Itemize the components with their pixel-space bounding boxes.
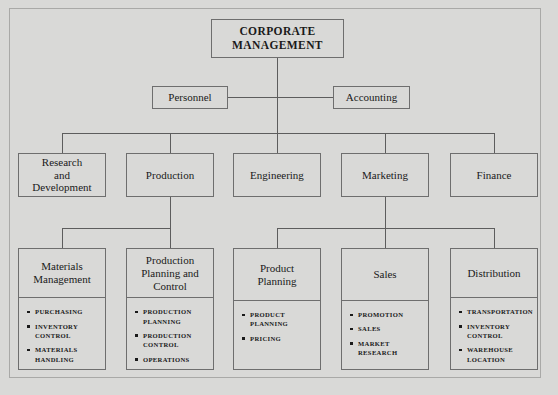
department-item-list: PURCHASING INVENTORY CONTROL MATERIALS H… — [19, 298, 105, 369]
node-production[interactable]: Production — [126, 153, 214, 197]
node-label: Personnel — [168, 91, 211, 104]
connector-marketing-stem — [385, 197, 386, 228]
connector-production-stem — [170, 197, 171, 228]
connector-drop-production-planning — [170, 228, 171, 248]
node-label: Engineering — [250, 169, 304, 182]
connector-drop-production — [170, 133, 171, 153]
node-engineering[interactable]: Engineering — [233, 153, 321, 197]
list-item: OPERATIONS — [135, 355, 209, 364]
connector-drop-distribution — [494, 228, 495, 248]
node-label: Research and Development — [32, 156, 91, 195]
node-label: Finance — [477, 169, 512, 182]
node-sales[interactable]: Sales PROMOTION SALES MARKET RESEARCH — [341, 248, 429, 370]
node-label: Sales — [342, 249, 428, 301]
connector-drop-engineering — [277, 133, 278, 153]
node-label: Marketing — [362, 169, 408, 182]
connector-root-trunk — [277, 58, 278, 133]
department-item-list: PROMOTION SALES MARKET RESEARCH — [342, 301, 428, 362]
node-label: Production — [146, 169, 194, 182]
list-item: PRICING — [242, 334, 316, 343]
node-product-planning[interactable]: Product Planning PRODUCT PLANNING PRICIN… — [233, 248, 321, 370]
list-item: TRANSPORTATION — [459, 307, 533, 316]
connector-drop-marketing — [385, 133, 386, 153]
department-item-list: PRODUCTION PLANNING PRODUCTION CONTROL O… — [127, 298, 213, 369]
node-personnel[interactable]: Personnel — [152, 86, 228, 109]
node-materials-management[interactable]: Materials Management PURCHASING INVENTOR… — [18, 248, 106, 370]
connector-marketing-bus — [277, 228, 495, 229]
node-label: Product Planning — [234, 249, 320, 301]
list-item: MARKET RESEARCH — [350, 339, 424, 358]
connector-production-bus — [62, 228, 171, 229]
department-item-list: TRANSPORTATION INVENTORY CONTROL WAREHOU… — [451, 298, 537, 369]
node-label: Materials Management — [19, 249, 105, 298]
list-item: PURCHASING — [27, 307, 101, 316]
node-label: Distribution — [451, 249, 537, 298]
connector-drop-sales — [385, 228, 386, 248]
list-item: PROMOTION — [350, 310, 424, 319]
node-finance[interactable]: Finance — [450, 153, 538, 197]
connector-division-bus — [62, 133, 494, 134]
node-marketing[interactable]: Marketing — [341, 153, 429, 197]
connector-drop-research — [62, 133, 63, 153]
org-chart-canvas: CORPORATE MANAGEMENT Personnel Accountin… — [0, 0, 558, 395]
node-corporate-management[interactable]: CORPORATE MANAGEMENT — [211, 19, 344, 58]
node-label: Accounting — [346, 91, 397, 104]
connector-drop-product-planning — [277, 228, 278, 248]
connector-staff-line — [228, 97, 333, 98]
list-item: INVENTORY CONTROL — [459, 322, 533, 341]
node-research-and-development[interactable]: Research and Development — [18, 153, 106, 197]
node-distribution[interactable]: Distribution TRANSPORTATION INVENTORY CO… — [450, 248, 538, 370]
node-accounting[interactable]: Accounting — [333, 86, 410, 109]
connector-drop-materials-management — [62, 228, 63, 248]
list-item: MATERIALS HANDLING — [27, 345, 101, 364]
department-item-list: PRODUCT PLANNING PRICING — [234, 301, 320, 348]
list-item: INVENTORY CONTROL — [27, 322, 101, 341]
list-item: PRODUCTION PLANNING — [135, 307, 209, 326]
node-label: Production Planning and Control — [127, 249, 213, 298]
list-item: WAREHOUSE LOCATION — [459, 345, 533, 364]
node-label: CORPORATE MANAGEMENT — [232, 25, 323, 52]
list-item: SALES — [350, 324, 424, 333]
list-item: PRODUCTION CONTROL — [135, 331, 209, 350]
node-production-planning-and-control[interactable]: Production Planning and Control PRODUCTI… — [126, 248, 214, 370]
connector-drop-finance — [494, 133, 495, 153]
list-item: PRODUCT PLANNING — [242, 310, 316, 329]
